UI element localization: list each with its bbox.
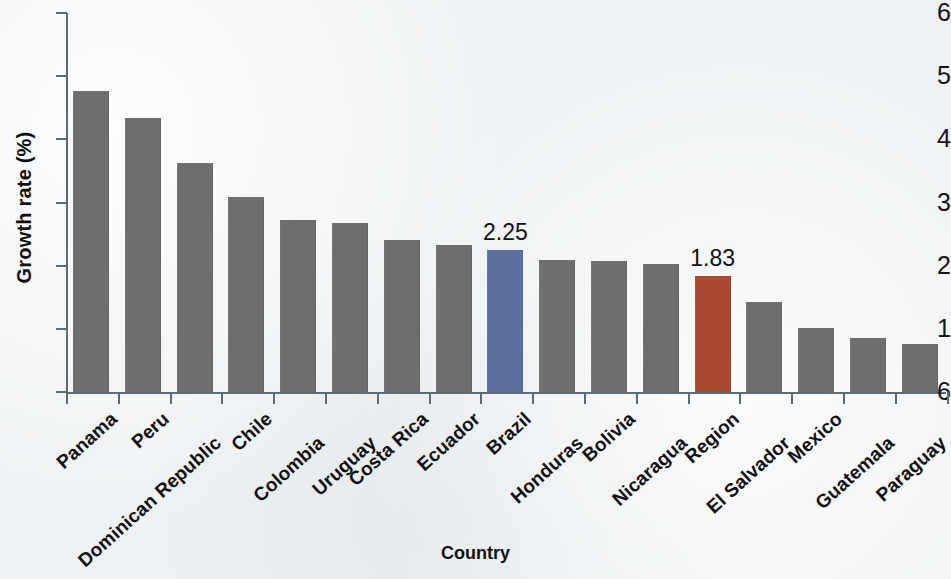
bar-nicaragua (643, 264, 679, 392)
bar-bolivia (591, 261, 627, 392)
bar-chile (228, 197, 264, 392)
bar-honduras (539, 260, 575, 392)
bar-value-label-region: 1.83 (678, 245, 748, 272)
bar-guatemala (850, 338, 886, 392)
bar-chart: Growth rate (%) 6543216 2.251.83 PanamaP… (0, 0, 951, 579)
bar-peru (125, 118, 161, 392)
bar-el-salvador (746, 302, 782, 392)
bar-value-label-brazil: 2.25 (470, 219, 540, 246)
bar-mexico (798, 328, 834, 392)
bar-costa-rica (384, 240, 420, 392)
bar-colombia (280, 220, 316, 392)
bar-uruguay (332, 223, 368, 392)
bar-region (695, 276, 731, 392)
bar-brazil (487, 250, 523, 392)
x-axis-title: Country (0, 543, 951, 564)
bar-panama (73, 91, 109, 392)
bar-ecuador (436, 245, 472, 392)
bar-paraguay (902, 344, 938, 392)
bar-dominican-republic (177, 163, 213, 392)
